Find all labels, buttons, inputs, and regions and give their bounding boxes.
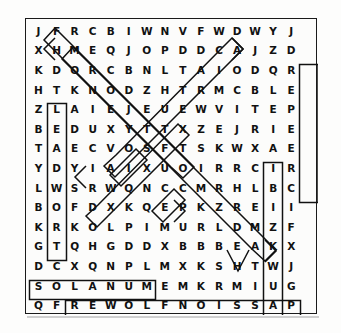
letter-cell-r9-c14: B — [264, 178, 282, 198]
letter-cell-r4-c1: H — [30, 80, 48, 100]
letter-cell-r14-c1: S — [30, 276, 48, 296]
letter-cell-r8-c4: I — [84, 158, 102, 178]
letter-cell-r1-c9: V — [174, 21, 192, 41]
letter-cell-r15-c7: L — [138, 295, 156, 315]
letter-cell-r11-c6: P — [120, 217, 138, 237]
letter-cell-r11-c9: U — [174, 217, 192, 237]
letter-cell-r13-c2: C — [48, 256, 66, 276]
letter-cell-r7-c13: X — [246, 139, 264, 159]
letter-cell-r15-c3: R — [66, 295, 84, 315]
letter-cell-r15-c5: W — [102, 295, 120, 315]
letter-cell-r14-c14: U — [264, 276, 282, 296]
letter-cell-r13-c8: M — [156, 256, 174, 276]
letter-cell-r2-c7: O — [138, 41, 156, 61]
letter-grid: JFRCBIWNVFWDWYJXHMEQJOPDDCAJZDKDORCBNLTA… — [26, 19, 316, 313]
letter-cell-r14-c15: G — [282, 276, 300, 296]
letter-cell-r2-c9: D — [174, 41, 192, 61]
letter-cell-r13-c7: L — [138, 256, 156, 276]
letter-cell-r7-c2: A — [48, 139, 66, 159]
letter-cell-r1-c14: Y — [264, 21, 282, 41]
letter-cell-r7-c4: C — [84, 139, 102, 159]
letter-cell-r9-c15: C — [282, 178, 300, 198]
letter-cell-r3-c15: R — [282, 60, 300, 80]
letter-cell-r1-c3: R — [66, 21, 84, 41]
letter-cell-r9-c7: N — [138, 178, 156, 198]
letter-cell-r6-c15: E — [282, 119, 300, 139]
letter-cell-r9-c4: R — [84, 178, 102, 198]
letter-cell-r4-c8: H — [156, 80, 174, 100]
letter-cell-r1-c8: N — [156, 21, 174, 41]
letter-cell-r6-c12: J — [228, 119, 246, 139]
letter-cell-r8-c10: I — [192, 158, 210, 178]
letter-cell-r13-c13: T — [246, 256, 264, 276]
letter-cell-r5-c4: I — [84, 99, 102, 119]
letter-cell-r8-c11: R — [210, 158, 228, 178]
letter-cell-r5-c7: E — [138, 99, 156, 119]
letter-cell-r5-c13: T — [246, 99, 264, 119]
letter-cell-r1-c13: W — [246, 21, 264, 41]
letter-cell-r10-c8: E — [156, 197, 174, 217]
letter-cell-r9-c12: H — [228, 178, 246, 198]
letter-cell-r13-c14: W — [264, 256, 282, 276]
letter-cell-r11-c1: K — [30, 217, 48, 237]
letter-cell-r13-c12: H — [228, 256, 246, 276]
letter-cell-r6-c4: U — [84, 119, 102, 139]
letter-cell-r14-c9: M — [174, 276, 192, 296]
letter-cell-r4-c10: R — [192, 80, 210, 100]
letter-cell-r3-c2: D — [48, 60, 66, 80]
letter-cell-r1-c1: J — [30, 21, 48, 41]
letter-cell-r2-c10: D — [192, 41, 210, 61]
letter-cell-r8-c15: R — [282, 158, 300, 178]
letter-cell-r10-c7: Q — [138, 197, 156, 217]
letter-cell-r10-c10: K — [192, 197, 210, 217]
letter-cell-r12-c10: B — [192, 237, 210, 257]
letter-cell-r10-c1: B — [30, 197, 48, 217]
letter-cell-r13-c9: X — [174, 256, 192, 276]
letter-cell-r4-c6: D — [120, 80, 138, 100]
letter-cell-r11-c2: R — [48, 217, 66, 237]
letter-cell-r7-c15: E — [282, 139, 300, 159]
letter-cell-r14-c7: M — [138, 276, 156, 296]
letter-cell-r4-c5: O — [102, 80, 120, 100]
letter-cell-r8-c1: Y — [30, 158, 48, 178]
letter-cell-r15-c8: F — [156, 295, 174, 315]
letter-cell-r12-c12: E — [228, 237, 246, 257]
letter-cell-r4-c3: K — [66, 80, 84, 100]
letter-cell-r11-c14: Z — [264, 217, 282, 237]
letter-cell-r6-c3: D — [66, 119, 84, 139]
letter-cell-r3-c4: R — [84, 60, 102, 80]
letter-cell-r10-c11: Z — [210, 197, 228, 217]
letter-cell-r3-c3: O — [66, 60, 84, 80]
letter-cell-r9-c6: Q — [120, 178, 138, 198]
letter-cell-r15-c15: P — [282, 295, 300, 315]
letter-cell-r2-c2: H — [48, 41, 66, 61]
letter-cell-r4-c2: T — [48, 80, 66, 100]
letter-cell-r12-c14: K — [264, 237, 282, 257]
letter-cell-r15-c1: Q — [30, 295, 48, 315]
letter-cell-r3-c8: L — [156, 60, 174, 80]
letter-cell-r15-c11: I — [210, 295, 228, 315]
letter-cell-r2-c12: A — [228, 41, 246, 61]
letter-cell-r14-c4: A — [84, 276, 102, 296]
letter-cell-r14-c3: L — [66, 276, 84, 296]
letter-cell-r6-c1: B — [30, 119, 48, 139]
letter-cell-r15-c13: S — [246, 295, 264, 315]
letter-cell-r12-c1: G — [30, 237, 48, 257]
letter-cell-r9-c11: R — [210, 178, 228, 198]
letter-cell-r5-c10: W — [192, 99, 210, 119]
letter-cell-r4-c14: L — [264, 80, 282, 100]
letter-cell-r5-c3: A — [66, 99, 84, 119]
letter-cell-r2-c14: Z — [264, 41, 282, 61]
letter-cell-r11-c8: M — [156, 217, 174, 237]
letter-cell-r6-c9: X — [174, 119, 192, 139]
letter-cell-r8-c12: R — [228, 158, 246, 178]
letter-cell-r12-c4: H — [84, 237, 102, 257]
letter-cell-r13-c3: X — [66, 256, 84, 276]
letter-cell-r11-c3: K — [66, 217, 84, 237]
letter-cell-r7-c7: S — [138, 139, 156, 159]
letter-cell-r14-c8: E — [156, 276, 174, 296]
letter-cell-r6-c11: E — [210, 119, 228, 139]
letter-cell-r1-c11: W — [210, 21, 228, 41]
letter-cell-r9-c3: S — [66, 178, 84, 198]
letter-cell-r13-c5: N — [102, 256, 120, 276]
